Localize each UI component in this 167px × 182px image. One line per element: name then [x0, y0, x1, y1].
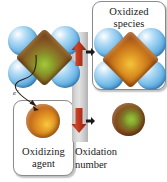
- oxidation-number-label: Oxidation number: [75, 146, 167, 171]
- oxidation-number-label-line1: Oxidation: [75, 146, 167, 159]
- oxidation-decrease-arrow-icon: [71, 108, 87, 133]
- electron-transfer-arrow-icon: [10, 55, 52, 113]
- pointer-right-arrow-icon-top: [86, 48, 95, 56]
- pointer-right-arrow-icon-bottom: [86, 117, 95, 125]
- molecule-oxidized-complex: [94, 28, 166, 90]
- callout-label-oxidized-species-line1: Oxidized: [93, 6, 165, 18]
- callout-label-oxidized-species: Oxidized species: [93, 6, 165, 30]
- oxidation-number-label-line2: number: [75, 159, 167, 172]
- callout-label-oxidizing-agent-line1: Oxidizing: [14, 146, 73, 158]
- callout-label-oxidizing-agent: Oxidizing agent: [14, 146, 73, 170]
- callout-label-oxidizing-agent-line2: agent: [14, 158, 73, 170]
- oxidation-increase-arrow-icon: [71, 41, 87, 66]
- reduced-product-sphere: [112, 103, 145, 136]
- redox-diagram: Oxidized species Oxidizing agent: [0, 0, 167, 182]
